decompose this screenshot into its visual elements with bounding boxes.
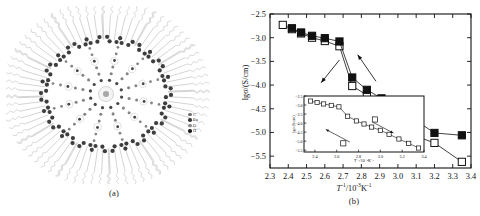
svg-text:2.9: 2.9: [374, 172, 384, 181]
svg-text:2.3: 2.3: [265, 172, 275, 181]
svg-text:−4.0: −4.0: [251, 81, 266, 90]
svg-text:3.0: 3.0: [378, 154, 383, 159]
svg-text:−4.0: −4.0: [295, 121, 302, 126]
svg-text:2.6: 2.6: [334, 154, 339, 159]
svg-text:lgσ/(S/cm): lgσ/(S/cm): [291, 115, 296, 133]
svg-text:−5.0: −5.0: [295, 139, 302, 144]
svg-text:−5.5: −5.5: [251, 152, 266, 161]
legend-item-h: H: [188, 128, 198, 133]
x-axis-title-sup3: -1: [367, 182, 372, 188]
svg-text:2.7: 2.7: [338, 172, 348, 181]
molecular-structure-image: C Eu O H: [6, 6, 222, 184]
svg-text:3.4: 3.4: [466, 172, 477, 181]
legend-swatch-eu-icon: [188, 118, 192, 122]
svg-text:2.6: 2.6: [320, 172, 330, 181]
svg-text:−5.0: −5.0: [251, 128, 266, 137]
legend-label-h: H: [193, 128, 196, 133]
svg-text:2.8: 2.8: [356, 172, 366, 181]
svg-text:3.4: 3.4: [421, 154, 427, 159]
svg-text:2.4: 2.4: [312, 154, 318, 159]
svg-text:−2.5: −2.5: [251, 10, 266, 19]
conductivity-plot: 2.32.42.52.62.72.82.93.03.13.23.33.4−2.5…: [228, 0, 480, 196]
molecule-svg: [6, 6, 222, 184]
svg-text:−3.0: −3.0: [251, 34, 266, 43]
svg-text:−3.0: −3.0: [295, 103, 302, 108]
svg-text:−2.5: −2.5: [295, 94, 302, 99]
legend-swatch-c-icon: [188, 113, 192, 117]
svg-text:3.2: 3.2: [429, 172, 439, 181]
panel-a: C Eu O H (a): [0, 0, 228, 216]
svg-text:−3.5: −3.5: [251, 57, 266, 66]
svg-text:−3.5: −3.5: [295, 112, 302, 117]
panel-a-caption: (a): [0, 188, 228, 198]
x-axis-title: T-1/10-3K-1: [228, 182, 480, 193]
x-axis-title-base: /10: [346, 184, 356, 193]
legend-swatch-h-icon: [188, 129, 192, 133]
figure-root: C Eu O H (a) 2.32.42.52.62.72.82.93.03.1…: [0, 0, 480, 216]
svg-text:3.1: 3.1: [411, 172, 421, 181]
y-axis-title: lgσ/(S/cm): [241, 40, 250, 126]
svg-text:T⁻¹/10⁻³K⁻¹: T⁻¹/10⁻³K⁻¹: [354, 158, 375, 163]
legend-swatch-o-icon: [188, 124, 192, 128]
molecule-legend: C Eu O H: [188, 112, 198, 134]
panel-b-caption: (b): [228, 196, 480, 206]
svg-text:−4.5: −4.5: [251, 105, 266, 114]
svg-text:3.3: 3.3: [447, 172, 457, 181]
y-axis-title-text: lgσ/(S/cm): [241, 65, 250, 100]
svg-text:2.5: 2.5: [301, 172, 311, 181]
svg-text:3.0: 3.0: [393, 172, 403, 181]
svg-text:2.4: 2.4: [283, 172, 294, 181]
svg-text:−4.5: −4.5: [295, 130, 302, 135]
svg-text:3.2: 3.2: [400, 154, 405, 159]
panel-b: 2.32.42.52.62.72.82.93.03.13.23.33.4−2.5…: [228, 0, 480, 216]
svg-text:−5.5: −5.5: [295, 148, 302, 153]
